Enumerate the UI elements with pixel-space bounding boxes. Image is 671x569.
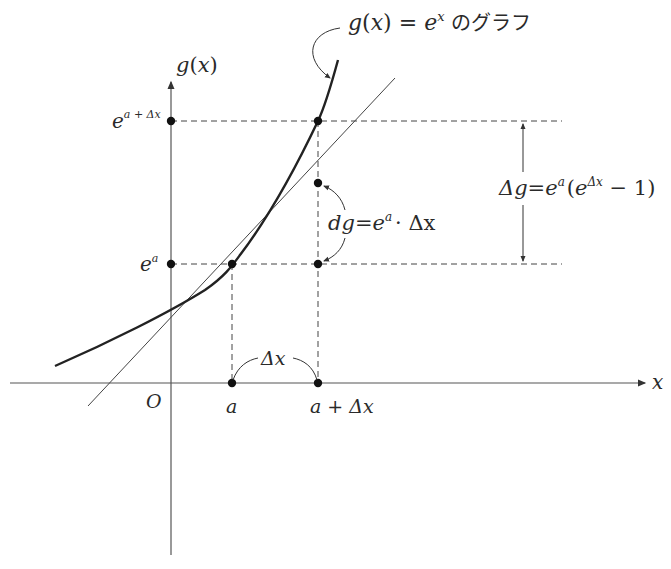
delta-x-label: Δx (260, 347, 286, 369)
point-y-lower (167, 260, 175, 268)
exponential-curve (55, 60, 338, 366)
exponential-derivative-diagram: g(x) = exのグラフ g(x) x O ea + Δx ea a a + … (0, 0, 671, 569)
tangent-line (88, 78, 395, 406)
delta-x-brace-right (293, 358, 317, 380)
dashed-guides (171, 121, 562, 383)
dg-label: dg=ea· Δx (328, 210, 436, 235)
curve-label: g(x) = exのグラフ (348, 9, 531, 35)
x-tick-a-plus-dx: a + Δx (310, 395, 374, 417)
y-tick-upper: ea + Δx (112, 108, 162, 133)
y-axis-label: g(x) (176, 53, 218, 77)
y-tick-lower: ea (140, 252, 158, 276)
delta-x-brace-left (233, 358, 258, 380)
point-x-a (228, 379, 236, 387)
origin-label: O (146, 390, 162, 412)
dg-arrow-down (324, 238, 345, 261)
point-tangent-upper (314, 179, 322, 187)
point-x-a-plus-dx (314, 379, 322, 387)
dg-arrow-up (324, 186, 345, 210)
x-axis-label: x (652, 370, 663, 394)
delta-g-label: Δg=ea(eΔx − 1) (498, 175, 655, 200)
point-tangency (228, 260, 236, 268)
point-curve-lower-right (314, 260, 322, 268)
point-curve-upper (314, 117, 322, 125)
point-y-upper (167, 117, 175, 125)
x-tick-a: a (226, 395, 237, 417)
